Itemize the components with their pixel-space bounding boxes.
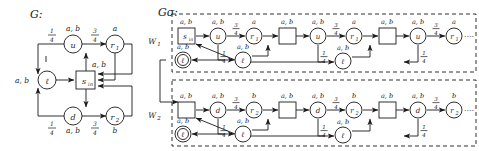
- row-W1: ℓ a, b s in a, b u a, b r 1 a a, b u a, …: [175, 18, 474, 69]
- w2-prob-d2-l4-num: 1: [322, 124, 326, 130]
- w2-node-l4-label: ℓ: [341, 132, 345, 140]
- edge-W1-to-W2-connector: [160, 60, 178, 102]
- prob-u-to-l-den: 4: [49, 36, 54, 43]
- node-d-label: d: [70, 113, 75, 122]
- w2-node-sq3[interactable]: [379, 102, 396, 118]
- node-d-botlabel: a, b: [66, 126, 80, 135]
- w1-prob-u1-r1a-den: 4: [233, 30, 238, 36]
- w2-node-d1-toplabel: a, b: [212, 92, 224, 100]
- w2-node-sq2[interactable]: [279, 102, 296, 118]
- w2-node-d1-label: d: [216, 107, 221, 115]
- w2-prob-d1-r2a-den: 4: [233, 104, 238, 110]
- w1-node-u3-label: u: [416, 33, 421, 41]
- w2-edge-d2-l4: [318, 119, 334, 136]
- w2-prob-d3-down-den: 4: [421, 132, 426, 138]
- w2-node-l3-label: ℓ: [241, 131, 245, 139]
- w1-prob-u2-l2-den: 4: [321, 58, 326, 64]
- w2-node-d3-label: d: [416, 107, 421, 115]
- region-W1-label: W 1: [148, 37, 161, 47]
- w2-prob-d3-r2c-den: 4: [433, 104, 438, 110]
- edge-d-to-l: [38, 88, 64, 116]
- w2-node-l4-toplabel: a, b: [337, 118, 349, 126]
- w2-node-sq3-toplabel: a, b: [381, 92, 393, 100]
- region-W1-label-sub: 1: [157, 41, 161, 47]
- w1-node-r1b-toplabel: a: [352, 18, 356, 26]
- w1-node-sin-toplabel: a, b: [180, 18, 192, 26]
- w1-prob-u1-r1a: 3 4: [233, 22, 240, 36]
- w2-prob-d1-l3-num: 1: [222, 124, 226, 130]
- prob-d-to-r2: 3 4: [91, 120, 99, 136]
- w1-prob-u2-l2-num: 1: [322, 50, 326, 56]
- prob-d-to-l-den: 4: [49, 129, 54, 136]
- w2-node-r2a-toplabel: b: [252, 92, 256, 100]
- w1-node-r1a[interactable]: [246, 28, 262, 44]
- node-sin-toplabel: a, b: [92, 60, 106, 69]
- edge-u-to-l: [38, 44, 64, 74]
- w1-node-u3-toplabel: a, b: [412, 18, 424, 26]
- w1-prob-u3-r1c-den: 4: [433, 30, 438, 36]
- w1-prob-u1-l1-num: 1: [222, 50, 226, 56]
- w1-node-sq3-toplabel: a, b: [381, 18, 393, 26]
- w1-ellipsis: ····: [464, 32, 474, 41]
- w1-node-sq2[interactable]: [279, 28, 296, 44]
- w2-node-r2b-sub: 2: [354, 110, 358, 116]
- node-u-toplabel: a, b: [66, 24, 80, 33]
- w2-edge-l4-back: [196, 118, 325, 136]
- w2-node-sq1[interactable]: [178, 102, 195, 118]
- w1-edge-l2-sq3: [352, 45, 370, 57]
- node-l-sidelabel: a, b: [15, 76, 29, 85]
- prob-d-to-r2-num: 3: [93, 120, 97, 127]
- node-sin-sub: in: [88, 81, 93, 87]
- w1-prob-u2-r1b-den: 4: [333, 30, 338, 36]
- w1-prob-u1-l1-den: 4: [221, 58, 226, 64]
- w1-node-l1-label: ℓ: [241, 57, 245, 65]
- w1-sink-label: ℓ: [181, 57, 185, 65]
- w1-prob-u3-down-num: 1: [422, 50, 426, 56]
- w2-edge-d1-l3: [218, 119, 234, 134]
- w2-node-r2b[interactable]: [346, 102, 362, 118]
- w1-node-r1c[interactable]: [446, 28, 462, 44]
- w1-node-r1a-sub: 1: [255, 36, 258, 42]
- w1-node-r1b[interactable]: [346, 28, 362, 44]
- node-sin-label: s: [82, 77, 86, 86]
- w1-edge-u1-l1: [218, 45, 234, 60]
- w2-node-d2-label: d: [316, 107, 321, 115]
- w1-prob-u2-r1b: 3 4: [333, 22, 340, 36]
- w2-prob-d3-r2c: 3 4: [433, 96, 440, 110]
- right-graph-Gsigma: Gσ: W 1 W 2: [148, 6, 476, 146]
- prob-u-to-l: 1 4: [48, 27, 56, 43]
- w2-node-l3-toplabel: a, b: [237, 117, 249, 125]
- w1-node-r1b-sub: 1: [355, 36, 358, 42]
- w1-node-u1-label: u: [216, 33, 221, 41]
- w2-prob-d1-r2a-num: 3: [234, 96, 238, 102]
- region-W1-label-text: W: [148, 37, 157, 46]
- w2-node-r2c[interactable]: [446, 102, 462, 118]
- w2-node-r2a[interactable]: [246, 102, 262, 118]
- node-r2-sub: 2: [115, 117, 120, 123]
- w2-prob-d2-r2b: 3 4: [333, 96, 340, 110]
- w1-edge-l2-back: [196, 44, 325, 62]
- w1-node-u2-label: u: [316, 33, 321, 41]
- diagram-svg: G: u a, b r 1 a ℓ a, b s: [0, 0, 479, 151]
- w2-prob-d1-r2a: 3 4: [233, 96, 240, 110]
- w1-prob-u3-down-den: 4: [421, 58, 426, 64]
- prob-u-to-r1-num: 3: [93, 27, 97, 34]
- prob-d-to-r2-den: 4: [92, 129, 97, 136]
- w1-prob-u3-r1c-num: 3: [434, 22, 438, 28]
- prob-d-to-l: 1 4: [48, 120, 56, 136]
- w1-node-l2-label: ℓ: [341, 58, 345, 66]
- w1-prob-u1-l1: 1 4: [221, 50, 228, 64]
- node-u-label: u: [70, 41, 75, 50]
- w2-node-d3-toplabel: a, b: [412, 92, 424, 100]
- prob-u-to-l-num: 1: [50, 27, 54, 34]
- left-graph-G: G: u a, b r 1 a ℓ a, b s: [15, 8, 132, 136]
- w2-prob-d1-l3-den: 4: [221, 132, 226, 138]
- w2-node-d2-toplabel: a, b: [312, 92, 324, 100]
- w2-prob-d1-l3: 1 4: [221, 124, 228, 138]
- w2-sink-label: ℓ: [181, 131, 185, 139]
- w1-node-r1a-toplabel: a: [252, 18, 256, 26]
- w2-node-r2b-toplabel: b: [352, 92, 356, 100]
- region-W2-label: W 2: [148, 111, 161, 121]
- w1-node-sq3[interactable]: [379, 28, 396, 44]
- prob-u-to-r1-den: 4: [92, 36, 97, 43]
